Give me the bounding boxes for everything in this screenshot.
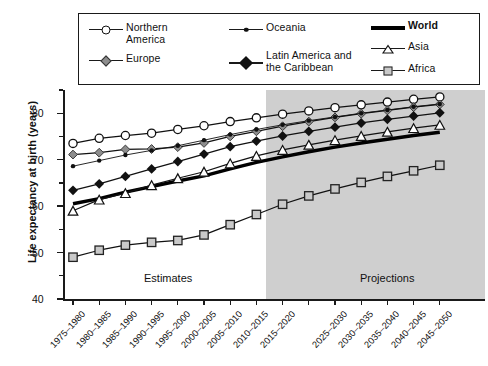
data-point-marker xyxy=(383,98,391,106)
x-tick-8 xyxy=(282,299,283,305)
data-point-marker xyxy=(357,101,365,109)
data-point-marker xyxy=(331,104,339,112)
x-tick-11 xyxy=(361,299,362,305)
projections-label: Projections xyxy=(360,272,414,284)
data-point-marker xyxy=(199,167,209,176)
data-point-marker xyxy=(176,144,180,148)
data-point-marker xyxy=(357,178,365,186)
data-point-marker xyxy=(385,108,389,112)
data-point-marker xyxy=(148,129,156,137)
data-point-marker xyxy=(307,118,311,122)
data-point-marker xyxy=(174,236,182,244)
x-tick-7 xyxy=(256,299,257,305)
data-point-marker xyxy=(121,131,129,139)
data-point-marker xyxy=(254,127,258,131)
estimates-label: Estimates xyxy=(144,272,192,284)
data-point-marker xyxy=(435,108,445,118)
data-point-marker xyxy=(278,200,286,208)
legend-label-northern-america: Northern America xyxy=(126,22,168,45)
legend-marker-thick-line xyxy=(371,21,405,34)
data-point-marker xyxy=(68,185,78,195)
life-expectancy-chart: Northern America Europe Oceania Latin Am… xyxy=(0,0,488,366)
data-point-marker xyxy=(95,134,103,142)
data-point-marker xyxy=(147,238,155,246)
data-point-marker xyxy=(174,125,182,133)
data-point-marker xyxy=(438,102,442,106)
legend-marker-small-dot xyxy=(229,23,263,36)
x-tick-2 xyxy=(125,299,126,305)
legend-item-africa: Africa xyxy=(371,63,435,77)
legend-item-oceania: Oceania xyxy=(229,22,306,36)
legend-item-world: World xyxy=(371,20,438,34)
legend-item-asia: Asia xyxy=(371,41,429,55)
data-point-marker xyxy=(200,122,208,130)
x-tick-5 xyxy=(203,299,204,305)
x-tick-12 xyxy=(387,299,388,305)
data-point-marker xyxy=(252,210,260,218)
data-point-marker xyxy=(200,231,208,239)
x-tick-4 xyxy=(177,299,178,305)
plot-area xyxy=(63,90,485,299)
data-point-marker xyxy=(69,139,77,147)
legend-item-europe: Europe xyxy=(89,53,160,67)
data-point-marker xyxy=(304,126,314,136)
data-point-marker xyxy=(278,146,288,155)
data-point-marker xyxy=(225,159,235,168)
legend-marker-black-diamond xyxy=(229,56,263,69)
data-point-marker xyxy=(68,206,78,215)
x-tick-14 xyxy=(439,299,440,305)
legend-marker-open-triangle xyxy=(371,42,405,55)
data-point-marker xyxy=(356,118,366,128)
x-tick-label-0: 1975–1980 xyxy=(12,309,88,366)
x-tick-9 xyxy=(308,299,309,305)
data-point-marker xyxy=(123,153,127,157)
data-point-marker xyxy=(409,167,417,175)
data-point-marker xyxy=(411,105,415,109)
data-point-marker xyxy=(305,107,313,115)
data-point-marker xyxy=(95,246,103,254)
legend-label-world: World xyxy=(408,20,438,32)
data-point-marker xyxy=(71,164,75,168)
data-point-marker xyxy=(121,145,130,154)
data-point-marker xyxy=(436,161,444,169)
data-point-marker xyxy=(252,136,262,146)
data-point-marker xyxy=(69,150,78,159)
data-point-marker xyxy=(330,122,340,132)
data-point-marker xyxy=(173,174,183,183)
data-point-marker xyxy=(383,114,393,124)
data-point-marker xyxy=(97,158,101,162)
data-point-marker xyxy=(121,171,131,181)
series-lines xyxy=(63,90,485,299)
data-point-marker xyxy=(331,185,339,193)
data-point-marker xyxy=(149,148,153,152)
data-point-marker xyxy=(252,152,262,161)
data-point-marker xyxy=(199,149,209,159)
data-point-marker xyxy=(94,179,104,189)
x-tick-1 xyxy=(99,299,100,305)
data-point-marker xyxy=(333,115,337,119)
legend-label-oceania: Oceania xyxy=(266,22,306,34)
data-point-marker xyxy=(69,253,77,261)
data-point-marker xyxy=(409,111,419,121)
legend-marker-open-circle xyxy=(89,23,123,36)
legend-label-latin-america: Latin America and the Caribbean xyxy=(266,50,352,73)
data-point-marker xyxy=(252,114,260,122)
x-tick-0 xyxy=(72,299,73,305)
data-point-marker xyxy=(147,164,157,174)
data-point-marker xyxy=(279,110,287,118)
x-tick-10 xyxy=(334,299,335,305)
x-tick-6 xyxy=(230,299,231,305)
data-point-marker xyxy=(383,172,391,180)
data-point-marker xyxy=(225,142,235,152)
legend-label-europe: Europe xyxy=(126,53,160,65)
legend-marker-grey-diamond xyxy=(89,54,123,67)
data-point-marker xyxy=(280,123,284,127)
legend-label-asia: Asia xyxy=(408,41,429,53)
data-point-marker xyxy=(305,192,313,200)
chart-legend: Northern America Europe Oceania Latin Am… xyxy=(78,13,480,85)
data-point-marker xyxy=(173,157,183,167)
data-point-marker xyxy=(121,241,129,249)
legend-label-africa: Africa xyxy=(408,63,435,75)
data-point-marker xyxy=(226,117,234,125)
data-point-marker xyxy=(359,111,363,115)
